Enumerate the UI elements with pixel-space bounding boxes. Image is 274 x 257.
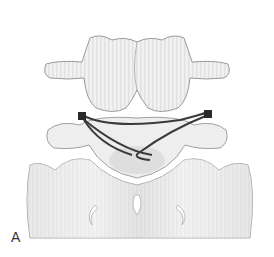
spine-illustration: [0, 0, 274, 257]
right-wire-clamp: [204, 110, 212, 118]
left-wire-clamp: [78, 112, 86, 120]
figure-label: A: [11, 229, 20, 245]
upper-vertebra: [45, 36, 230, 112]
